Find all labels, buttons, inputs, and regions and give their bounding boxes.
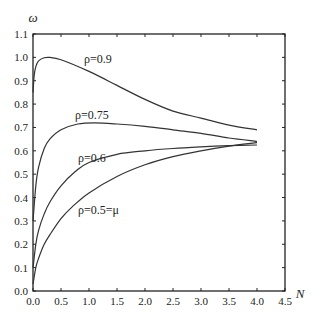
y-tick-label: 0.2 [14,238,28,250]
y-axis-label: ω [28,10,37,25]
y-tick-label: 0.8 [14,98,28,110]
x-tick-label: 3.0 [194,295,208,307]
x-tick-label: 1.0 [82,295,96,307]
curve-series-1 [33,123,257,221]
curves [33,57,257,284]
y-tick-label: 0.5 [14,168,28,180]
y-tick-label: 0.7 [14,121,28,133]
curve-label-rho-0-5-mu: ρ=0.5=μ [78,203,119,217]
curve-series-3 [33,143,257,284]
curve-label-rho-0-75: ρ=0.75 [75,108,109,122]
curve-label-rho-0-9: ρ=0.9 [84,52,112,66]
chart-svg: 0.00.51.01.52.02.53.03.54.04.50.00.10.20… [0,0,322,317]
x-tick-label: 0.5 [54,295,68,307]
x-tick-label: 3.5 [222,295,236,307]
y-tick-label: 0.3 [14,215,28,227]
plot-border [33,34,285,291]
y-tick-label: 0.4 [14,192,28,204]
y-tick-label: 0.0 [14,285,28,297]
curve-label-rho-0-6: ρ=0.6 [78,151,106,165]
y-tick-label: 0.9 [14,75,28,87]
y-tick-label: 1.1 [14,28,28,40]
x-tick-label: 4.0 [250,295,264,307]
plot-frame [33,34,285,291]
x-tick-label: 2.0 [138,295,152,307]
x-axis-label: N [295,286,306,301]
y-tick-label: 0.6 [14,145,28,157]
x-tick-label: 0.0 [26,295,40,307]
y-tick-label: 0.1 [14,262,28,274]
y-tick-label: 1.0 [14,51,28,63]
axis-ticks: 0.00.51.01.52.02.53.03.54.04.50.00.10.20… [14,28,292,307]
x-tick-label: 1.5 [110,295,124,307]
curve-series-0 [33,57,257,130]
x-tick-label: 4.5 [278,295,292,307]
x-tick-label: 2.5 [166,295,180,307]
curve-series-2 [33,145,257,268]
